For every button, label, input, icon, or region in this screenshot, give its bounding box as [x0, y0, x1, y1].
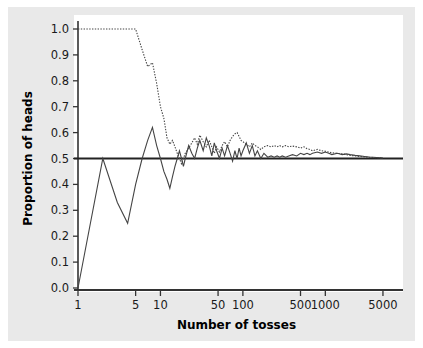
- y-tick-label: 1.0: [51, 22, 69, 36]
- figure-panel: 0.00.10.20.30.40.50.60.70.80.91.0 151050…: [8, 7, 415, 341]
- y-axis-title: Proportion of heads: [21, 91, 35, 226]
- y-tick-label: 0.7: [51, 100, 69, 114]
- x-tick-label: 1000: [311, 298, 340, 312]
- coin-toss-convergence-chart: 0.00.10.20.30.40.50.60.70.80.91.0 151050…: [8, 7, 415, 341]
- y-tick-label: 0.8: [51, 74, 69, 88]
- x-tick-label: 100: [232, 298, 254, 312]
- x-tick-label: 5: [132, 298, 139, 312]
- y-tick-label: 0.5: [51, 152, 69, 166]
- y-tick-label: 0.2: [51, 229, 69, 243]
- chart-plot-area: 0.00.10.20.30.40.50.60.70.80.91.0 151050…: [8, 7, 415, 341]
- x-tick-label: 50: [211, 298, 226, 312]
- y-tick-label: 0.9: [51, 48, 69, 62]
- x-tick-label: 5000: [368, 298, 397, 312]
- x-tick-label: 500: [290, 298, 312, 312]
- x-tick-label: 10: [153, 298, 168, 312]
- y-tick-label: 0.4: [51, 177, 69, 191]
- y-tick-label: 0.3: [51, 203, 69, 217]
- y-tick-label: 0.0: [51, 281, 69, 295]
- y-tick-label: 0.6: [51, 126, 69, 140]
- y-tick-label: 0.1: [51, 255, 69, 269]
- x-axis-title: Number of tosses: [177, 318, 296, 332]
- x-tick-label: 1: [74, 298, 81, 312]
